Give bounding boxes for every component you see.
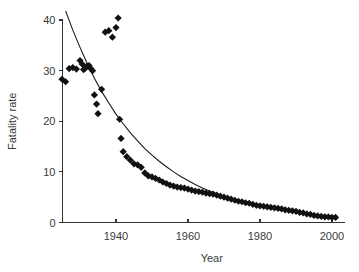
x-tick-label: 1940 — [104, 230, 128, 242]
y-tick-label: 30 — [43, 65, 55, 77]
x-tick-label: 1980 — [248, 230, 272, 242]
chart-svg: 0102030401940196019802000YearFatality ra… — [0, 0, 359, 272]
data-point-marker — [112, 24, 119, 31]
x-tick-label: 1960 — [176, 230, 200, 242]
data-point-marker — [109, 34, 116, 41]
y-axis-title: Fatality rate — [6, 93, 18, 150]
data-point-marker — [117, 135, 124, 142]
data-point-marker — [94, 110, 101, 117]
data-point-marker — [332, 214, 339, 221]
plot-layer: 0102030401940196019802000YearFatality ra… — [6, 11, 345, 264]
y-tick-label: 20 — [43, 115, 55, 127]
data-point-marker — [91, 91, 98, 98]
data-point-marker — [120, 148, 127, 155]
y-tick-label: 0 — [49, 217, 55, 229]
data-point-marker — [93, 100, 100, 107]
x-tick-label: 2000 — [320, 230, 344, 242]
data-point-marker — [115, 14, 122, 21]
y-tick-label: 10 — [43, 166, 55, 178]
chart-figure: 0102030401940196019802000YearFatality ra… — [0, 0, 359, 272]
fit-curve — [66, 11, 336, 217]
data-point-group — [58, 14, 339, 221]
x-axis-title: Year — [201, 252, 224, 264]
y-tick-label: 40 — [43, 14, 55, 26]
